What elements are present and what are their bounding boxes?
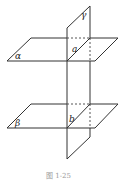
- plane-alpha: [7, 38, 118, 61]
- label-beta: β: [14, 118, 20, 128]
- plane-gamma: [67, 6, 90, 159]
- label-gamma: γ: [81, 10, 87, 20]
- figure-caption: 图 1-25: [46, 172, 71, 180]
- plane-beta: [7, 104, 118, 128]
- label-b: b: [69, 114, 75, 124]
- label-alpha: α: [15, 51, 21, 61]
- three-planes-diagram: γ α a β b 图 1-25: [0, 0, 122, 182]
- label-a: a: [72, 44, 77, 54]
- line-a: [67, 38, 90, 61]
